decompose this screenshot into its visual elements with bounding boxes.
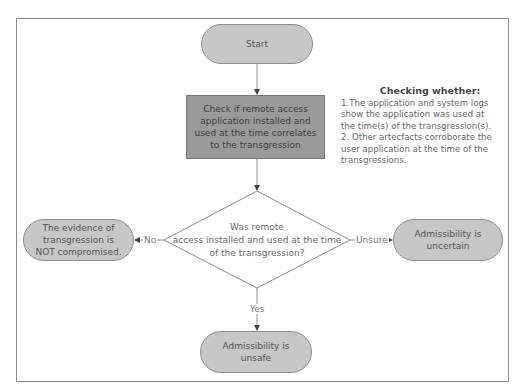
uncertain-node: Admissibility is uncertain [393,219,503,261]
check-process-node: Check if remote access application insta… [186,95,325,159]
edge-label-no: No [143,235,157,245]
not-compromised-node: The evidence of transgression is NOT com… [23,219,134,261]
start-node-label: Start [246,38,268,50]
note-line: user application at the time of the [341,144,519,156]
edge-label-unsure: Unsure [355,235,389,245]
note-line: the time(s) of the transgression(s). [341,121,519,133]
note-title: Checking whether: [341,85,519,97]
edge-label-yes: Yes [249,304,266,314]
note-line: 2. Other artecfacts corroborate the [341,132,519,144]
check-process-label: Check if remote access application insta… [193,103,318,151]
note-line: 1.The application and system logs [341,98,519,110]
start-node: Start [201,24,313,64]
unsafe-node: Admissibility is unsafe [200,331,312,373]
note-line: transgressions. [341,155,519,167]
decision-node-label: Was remote access installed and used at … [170,221,344,260]
note-line: show the application was used at [341,109,519,121]
checking-note: Checking whether: 1.The application and … [341,85,519,167]
